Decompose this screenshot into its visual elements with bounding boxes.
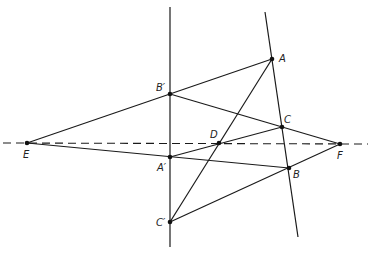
segment-b-prime-f [170, 94, 340, 144]
point-c [280, 125, 285, 130]
point-d [217, 141, 222, 146]
segment-e-a [27, 59, 272, 143]
points-layer [25, 57, 343, 225]
label-e: E [23, 149, 30, 160]
dashed-line-e-d-f [3, 143, 368, 144]
label-a-prime: A′ [156, 162, 167, 173]
label-d: D [210, 129, 218, 140]
desargues-diagram: AB′CDEFA′BC′ [0, 0, 371, 256]
lines-layer [3, 7, 368, 247]
point-f [338, 142, 343, 147]
point-b [287, 166, 292, 171]
label-b: B [293, 169, 300, 180]
point-c-prime [168, 220, 173, 225]
segment-c-prime-a [170, 59, 272, 222]
label-f: F [337, 150, 343, 161]
line-a-c-b [265, 12, 298, 237]
segment-c-prime-f [170, 144, 340, 222]
point-b-prime [168, 92, 173, 97]
point-a [270, 57, 275, 62]
label-b-prime: B′ [156, 82, 166, 93]
point-e [25, 141, 30, 146]
point-a-prime [168, 155, 173, 160]
label-c-prime: C′ [156, 217, 166, 228]
label-a: A [278, 53, 286, 64]
label-c: C [284, 114, 291, 125]
